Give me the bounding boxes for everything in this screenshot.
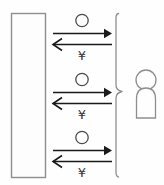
supplier-entity-box <box>12 14 46 178</box>
exchange-group-3: ¥ <box>53 131 112 180</box>
exchange-group-1: ¥ <box>53 14 112 63</box>
money-yen-glyph-3: ¥ <box>78 165 86 180</box>
exchange-group-2: ¥ <box>53 73 112 122</box>
goods-flow-arrowhead-1 <box>104 29 112 38</box>
diagram-svg-canvas: ¥ ¥ ¥ <box>0 0 164 185</box>
customer-person-icon <box>136 70 156 118</box>
money-yen-glyph-2: ¥ <box>78 107 86 122</box>
goods-flow-arrowhead-2 <box>104 88 112 97</box>
goods-circle-icon-1 <box>76 14 88 26</box>
person-body-icon <box>137 88 156 118</box>
exchange-flow-diagram: ¥ ¥ ¥ <box>0 0 164 185</box>
grouping-brace <box>116 14 122 178</box>
goods-circle-icon-3 <box>76 131 88 143</box>
money-yen-glyph-1: ¥ <box>78 48 86 63</box>
goods-circle-icon-2 <box>76 73 88 85</box>
person-head-icon <box>136 70 156 90</box>
goods-flow-arrowhead-3 <box>104 146 112 155</box>
